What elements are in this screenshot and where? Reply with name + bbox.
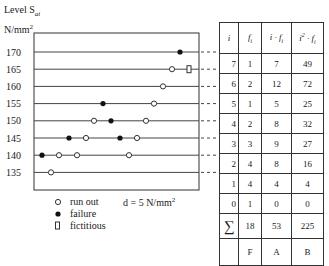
run-out-marker-icon <box>169 67 174 72</box>
fictitious-icon <box>56 222 60 229</box>
failure-marker-icon <box>39 153 44 158</box>
table-cell: 3 <box>239 134 262 154</box>
level-tick: 140 <box>6 150 21 161</box>
table-cell: 16 <box>292 154 324 174</box>
table-cell: B <box>292 239 324 266</box>
table-cell: 4 <box>239 174 262 194</box>
table-cell: 7 <box>262 54 292 74</box>
table-row: 71749 <box>220 54 324 74</box>
table-cell: 4 <box>220 114 239 134</box>
table-cell: 225 <box>292 214 324 239</box>
level-tick: 155 <box>6 98 21 109</box>
table-sum-row: ∑1853225 <box>220 214 324 239</box>
run-out-marker-icon <box>48 170 53 175</box>
failure-marker-icon <box>108 118 113 123</box>
level-tick: 135 <box>6 167 21 178</box>
table-label-row: FAB <box>220 239 324 266</box>
table-row: 24816 <box>220 154 324 174</box>
run-out-marker-icon <box>134 135 139 140</box>
table-cell: 4 <box>262 174 292 194</box>
table-cell: 1 <box>239 94 262 114</box>
run-out-marker-icon <box>151 101 156 106</box>
table-cell: 27 <box>292 134 324 154</box>
plot-frame <box>34 33 199 190</box>
legend-step-sup: 2 <box>172 196 176 204</box>
table-cell: 8 <box>262 114 292 134</box>
run-out-marker-icon <box>126 153 131 158</box>
frequency-table: ifii · fii2 · fi717496212725152542832339… <box>219 22 324 266</box>
test-markers <box>39 49 191 175</box>
table-cell: 25 <box>292 94 324 114</box>
table-cell: fi <box>239 23 262 54</box>
table-cell: 53 <box>262 214 292 239</box>
legend-step: d = 5 N/mm2 <box>123 197 175 208</box>
fictitious-marker-icon <box>187 66 191 73</box>
table-cell: F <box>239 239 262 266</box>
level-tick-labels: 170165160155150145140135 <box>6 47 21 178</box>
table-cell: 0 <box>220 194 239 214</box>
table-row: 621272 <box>220 74 324 94</box>
level-tick: 165 <box>6 64 21 75</box>
level-tick: 160 <box>6 81 21 92</box>
table-cell: 2 <box>220 154 239 174</box>
table-cell: 3 <box>220 134 239 154</box>
table-cell: 8 <box>262 154 292 174</box>
run-out-icon <box>55 199 60 204</box>
legend-fictitious: fictitious <box>70 221 106 231</box>
table-cell <box>220 239 239 266</box>
run-out-marker-icon <box>56 153 61 158</box>
legend-step-text: d = 5 N/mm <box>123 197 172 208</box>
run-out-marker-icon <box>74 153 79 158</box>
level-tick: 145 <box>6 133 21 144</box>
level-tick: 170 <box>6 47 21 58</box>
run-out-marker-icon <box>83 135 88 140</box>
run-out-marker-icon <box>91 118 96 123</box>
table-cell: 7 <box>220 54 239 74</box>
table-header-row: ifii · fii2 · fi <box>220 23 324 54</box>
legend-failure: failure <box>70 209 96 219</box>
table-cell: 4 <box>239 154 262 174</box>
table-cell: 1 <box>220 174 239 194</box>
failure-marker-icon <box>66 135 71 140</box>
table-cell: 4 <box>292 174 324 194</box>
table-cell: 5 <box>220 94 239 114</box>
legend-run-out: run out <box>70 197 99 207</box>
table-cell: 0 <box>262 194 292 214</box>
level-tick: 150 <box>6 115 21 126</box>
table-cell: 2 <box>239 74 262 94</box>
failure-marker-icon <box>117 135 122 140</box>
table-cell: 49 <box>292 54 324 74</box>
table-row: 1444 <box>220 174 324 194</box>
table-cell: A <box>262 239 292 266</box>
failure-marker-icon <box>100 101 105 106</box>
table-cell: 1 <box>239 194 262 214</box>
table-cell: i <box>220 23 239 54</box>
table-cell: 6 <box>220 74 239 94</box>
run-out-marker-icon <box>143 118 148 123</box>
failure-marker-icon <box>177 49 182 54</box>
table-cell: i2 · fi <box>292 23 324 54</box>
table-cell: i · fi <box>262 23 292 54</box>
failure-icon <box>55 211 60 216</box>
table-cell: ∑ <box>220 214 239 239</box>
table-row: 51525 <box>220 94 324 114</box>
table-cell: 12 <box>262 74 292 94</box>
table-cell: 5 <box>262 94 292 114</box>
table-cell: 0 <box>292 194 324 214</box>
table-cell: 18 <box>239 214 262 239</box>
table-cell: 9 <box>262 134 292 154</box>
table-row: 33927 <box>220 134 324 154</box>
table-row: 0100 <box>220 194 324 214</box>
table-cell: 72 <box>292 74 324 94</box>
table-cell: 2 <box>239 114 262 134</box>
table-cell: 1 <box>239 54 262 74</box>
table-row: 42832 <box>220 114 324 134</box>
run-out-marker-icon <box>160 84 165 89</box>
table-cell: 32 <box>292 114 324 134</box>
